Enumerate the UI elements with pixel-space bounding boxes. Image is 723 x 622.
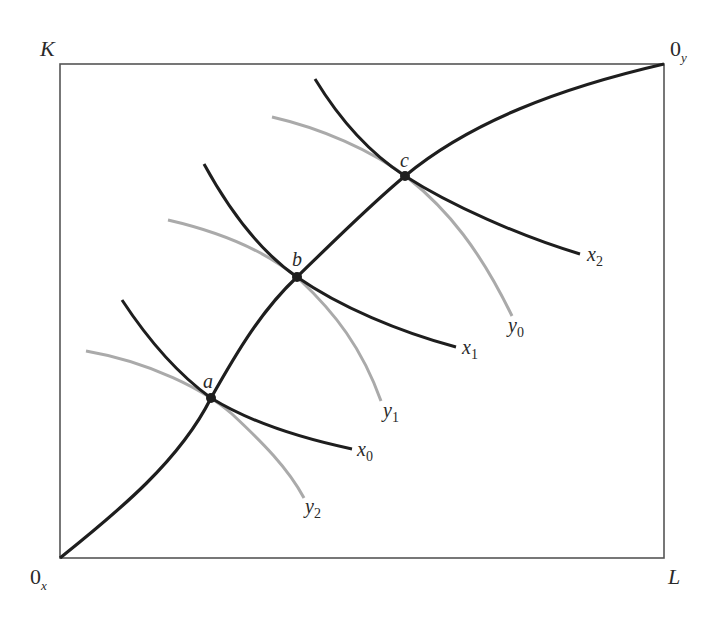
isoquant-x2-label: x2 <box>586 243 603 269</box>
axis-label-l: L <box>667 564 680 589</box>
isoquant-x1-main: x <box>461 336 471 358</box>
isoquant-x0-label: x0 <box>356 438 373 464</box>
isoquant-y1-label: y1 <box>381 399 399 425</box>
origin-y-label: 0y <box>670 36 687 65</box>
axis-label-k: K <box>39 36 56 61</box>
isoquant-y1-sub: 1 <box>392 410 399 425</box>
isoquant-x1-sub: 1 <box>471 347 478 362</box>
isoquant-x0-sub: 0 <box>366 449 373 464</box>
contract-curve <box>60 64 664 558</box>
isoquant-y0-label: y0 <box>506 314 524 340</box>
isoquant-y1 <box>168 220 381 401</box>
isoquant-x2-sub: 2 <box>596 254 603 269</box>
isoquant-y0-main: y <box>506 314 517 337</box>
edgeworth-box-diagram: a b c K L 0x 0y x0 x1 x2 y2 y1 y0 <box>0 0 723 622</box>
isoquant-x1 <box>204 164 456 347</box>
point-a <box>206 393 216 403</box>
origin-x-label: 0x <box>30 564 47 593</box>
isoquant-y2-main: y <box>303 495 314 518</box>
point-b <box>292 272 302 282</box>
isoquant-y0-sub: 0 <box>517 325 524 340</box>
edgeworth-box-frame <box>60 64 664 558</box>
point-c <box>400 171 410 181</box>
isoquant-x1-label: x1 <box>461 336 478 362</box>
origin-y-main: 0 <box>670 36 681 61</box>
origin-x-sub: x <box>40 578 47 593</box>
isoquant-x2-main: x <box>586 243 596 265</box>
origin-x-main: 0 <box>30 564 41 589</box>
isoquant-y2-sub: 2 <box>314 506 321 521</box>
isoquant-y2-label: y2 <box>303 495 321 521</box>
point-c-label: c <box>400 149 409 171</box>
origin-y-sub: y <box>679 50 687 65</box>
point-b-label: b <box>292 248 302 270</box>
isoquant-x2 <box>315 79 580 254</box>
isoquant-y1-main: y <box>381 399 392 422</box>
point-a-label: a <box>203 370 213 392</box>
isoquant-x0 <box>122 300 352 449</box>
isoquant-x0-main: x <box>356 438 366 460</box>
